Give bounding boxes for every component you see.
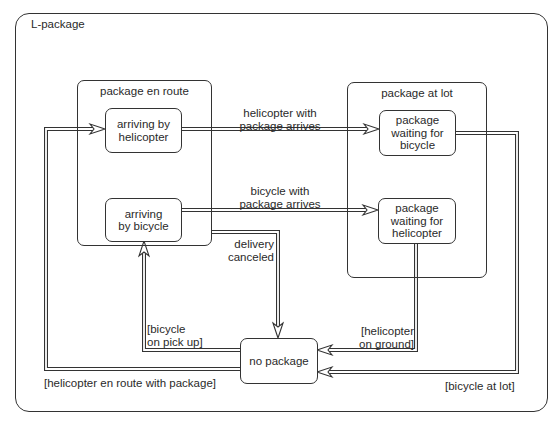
state-label: waiting for	[391, 215, 443, 228]
label-delivery-canceled: delivery canceled	[214, 238, 274, 263]
label-line: helicopter with	[235, 107, 325, 120]
state-label: arriving	[118, 208, 169, 221]
state-label: waiting for	[391, 127, 443, 140]
frame-title: L-package	[31, 18, 85, 30]
label-line: [helicopter en route with package]	[44, 377, 216, 390]
state-label: by bicycle	[118, 220, 169, 233]
label-line: [helicopter	[352, 325, 414, 338]
label-line: on ground]	[352, 338, 414, 351]
label-line: canceled	[214, 251, 274, 264]
label-bike-arrives: bicycle with package arrives	[235, 185, 325, 210]
label-line: package arrives	[235, 198, 325, 211]
state-no-package: no package	[240, 338, 318, 384]
label-line: bicycle with	[235, 185, 325, 198]
state-label: no package	[249, 355, 308, 368]
label-heli-on-ground: [helicopter on ground]	[352, 325, 414, 350]
state-label: package	[391, 202, 443, 215]
state-arriving-by-bicycle: arriving by bicycle	[105, 198, 182, 242]
label-bicycle-at-lot: [bicycle at lot]	[445, 380, 515, 393]
label-line: [bicycle	[147, 323, 203, 336]
state-arriving-by-helicopter: arriving by helicopter	[105, 108, 182, 153]
state-label: package	[391, 114, 443, 127]
label-line: on pick up]	[147, 336, 203, 349]
composite-title: package en route	[78, 85, 211, 98]
label-heli-en-route: [helicopter en route with package]	[44, 377, 216, 390]
label-heli-arrives: helicopter with package arrives	[235, 107, 325, 132]
label-bicycle-pickup: [bicycle on pick up]	[147, 323, 203, 348]
state-label: arriving by	[117, 118, 170, 131]
state-label: helicopter	[391, 227, 443, 240]
label-line: package arrives	[235, 120, 325, 133]
label-line: [bicycle at lot]	[445, 380, 515, 393]
state-package-waiting-for-helicopter: package waiting for helicopter	[378, 198, 456, 244]
label-line: delivery	[214, 238, 274, 251]
state-package-waiting-for-bicycle: package waiting for bicycle	[379, 110, 456, 156]
state-label: bicycle	[391, 139, 443, 152]
state-label: helicopter	[117, 131, 170, 144]
composite-title: package at lot	[348, 87, 486, 100]
